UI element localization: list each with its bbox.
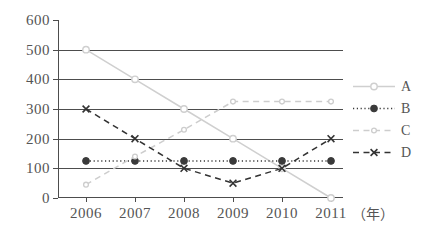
data-point-marker	[133, 154, 138, 159]
y-axis-label-300: 300	[26, 101, 50, 118]
data-point-marker	[328, 158, 335, 165]
y-axis-label-500: 500	[26, 41, 50, 58]
series-line-d	[86, 109, 331, 183]
legend-label-d: D	[401, 146, 411, 159]
chart-legend: ABCD	[352, 80, 411, 159]
data-point-marker	[231, 99, 236, 104]
legend-label-a: A	[401, 80, 411, 93]
x-axis-label-2006: 2006	[70, 205, 102, 222]
x-axis-label-2007: 2007	[119, 205, 151, 222]
x-tick-2009	[233, 198, 234, 202]
y-axis-label-100: 100	[26, 160, 50, 177]
data-point-marker	[328, 195, 334, 201]
y-axis-label-400: 400	[26, 71, 50, 88]
series-c	[84, 99, 334, 187]
data-point-marker	[83, 46, 89, 52]
y-axis-label-0: 0	[42, 190, 50, 207]
series-d	[83, 106, 335, 187]
legend-item-a[interactable]: A	[352, 80, 411, 93]
legend-swatch-d	[352, 146, 396, 159]
data-point-marker	[230, 135, 236, 141]
data-point-marker	[132, 135, 139, 142]
x-tick-2008	[184, 198, 185, 202]
data-point-marker	[328, 135, 335, 142]
data-point-marker	[83, 106, 90, 113]
legend-label-b: B	[401, 102, 410, 115]
legend-swatch-b	[352, 102, 396, 115]
series-a	[83, 46, 334, 201]
data-point-marker	[182, 127, 187, 132]
legend-swatch-a	[352, 80, 396, 93]
plot-area: 0100200300400500600 20062007200820092010…	[58, 20, 343, 198]
x-axis-label-2011: 2011	[315, 205, 346, 222]
series-b	[83, 158, 335, 165]
x-axis-unit-label: （年）	[352, 203, 394, 223]
line-chart: 0100200300400500600 20062007200820092010…	[0, 0, 426, 234]
legend-item-d[interactable]: D	[352, 146, 411, 159]
x-tick-2010	[282, 198, 283, 202]
x-axis-label-2010: 2010	[266, 205, 298, 222]
data-point-marker	[230, 158, 237, 165]
series-layer	[58, 20, 343, 198]
legend-swatch-c	[352, 124, 396, 137]
x-axis-label-2008: 2008	[168, 205, 200, 222]
x-axis-label-2009: 2009	[217, 205, 249, 222]
data-point-marker	[280, 99, 285, 104]
data-point-marker	[329, 99, 334, 104]
legend-label-c: C	[401, 124, 410, 137]
y-tick-0	[53, 198, 58, 199]
data-point-marker	[181, 158, 188, 165]
y-axis-label-200: 200	[26, 130, 50, 147]
legend-item-c[interactable]: C	[352, 124, 411, 137]
x-tick-2007	[135, 198, 136, 202]
series-line-c	[86, 102, 331, 185]
data-point-marker	[181, 106, 187, 112]
y-axis-label-600: 600	[26, 12, 50, 29]
data-point-marker	[132, 76, 138, 82]
legend-item-b[interactable]: B	[352, 102, 411, 115]
data-point-marker	[83, 158, 90, 165]
data-point-marker	[279, 158, 286, 165]
data-point-marker	[84, 182, 89, 187]
x-tick-2006	[86, 198, 87, 202]
